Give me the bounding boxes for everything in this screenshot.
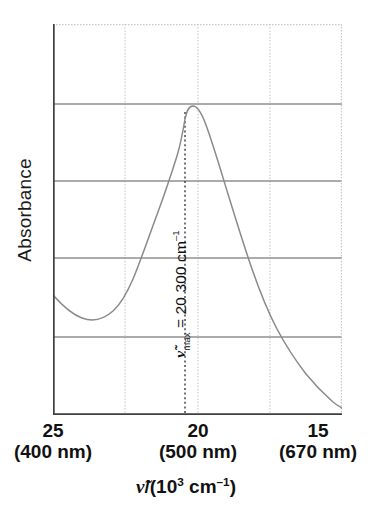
plot-area: ν̃max = 20 300 cm–1 xyxy=(53,24,342,415)
y-axis-title-container: Absorbance xyxy=(0,0,50,420)
y-axis-title: Absorbance xyxy=(14,158,36,261)
x-tick-15-value: 15 xyxy=(268,420,368,441)
x-axis-title-unit: cm xyxy=(184,476,217,497)
x-axis-nu-symbol: ν̃ xyxy=(136,476,144,497)
plot-svg xyxy=(53,24,342,415)
x-tick-20-value: 20 xyxy=(148,420,248,441)
x-tick-25-value: 25 xyxy=(3,420,103,441)
x-axis-title-open: /(10 xyxy=(144,476,177,497)
x-axis-title-close: ) xyxy=(230,476,236,497)
x-tick-15-wavelength: (670 nm) xyxy=(268,441,368,462)
absorbance-spectrum-figure: Absorbance xyxy=(0,0,372,510)
x-tick-25: 25 (400 nm) xyxy=(3,420,103,463)
x-tick-25-wavelength: (400 nm) xyxy=(3,441,103,462)
x-tick-20: 20 (500 nm) xyxy=(148,420,248,463)
x-axis-title-unit-exponent: –1 xyxy=(217,475,230,488)
x-tick-20-wavelength: (500 nm) xyxy=(148,441,248,462)
x-tick-15: 15 (670 nm) xyxy=(268,420,368,463)
x-axis-title: ν̃/(103 cm–1) xyxy=(0,475,372,498)
